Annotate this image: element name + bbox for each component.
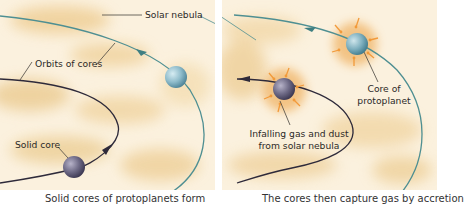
label-orbits-of-cores: Orbits of cores <box>35 58 102 69</box>
protoplanet-core <box>346 33 368 55</box>
nebula-diagram-left: Solar nebula Orbits of cores Solid core <box>0 0 215 190</box>
outer-core <box>165 66 187 88</box>
label-infalling-line1: Infalling gas and dust <box>249 128 348 139</box>
panel-solid-cores: Solar nebula Orbits of cores Solid core <box>0 0 215 190</box>
nebula-diagram-right: Core of protoplanet Infalling gas and du… <box>222 0 437 190</box>
label-core-of-protoplanet-line2: protoplanet <box>357 95 411 106</box>
solid-core <box>63 156 85 178</box>
label-solid-core: Solid core <box>15 139 61 150</box>
label-core-of-protoplanet-line1: Core of <box>367 83 401 94</box>
label-solar-nebula: Solar nebula <box>145 9 203 20</box>
label-infalling-line2: from solar nebula <box>259 140 340 151</box>
accreting-core <box>273 78 295 100</box>
caption-left: Solid cores of protoplanets form <box>45 193 205 204</box>
caption-right: The cores then capture gas by accretion <box>262 193 464 204</box>
panel-gas-capture: Core of protoplanet Infalling gas and du… <box>222 0 437 190</box>
